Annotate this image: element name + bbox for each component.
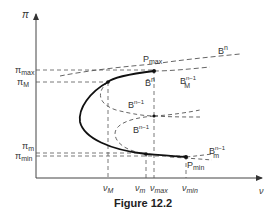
point-m <box>144 152 148 156</box>
point-crossing <box>153 115 156 118</box>
label-Bn1-upper: Bn−1 <box>128 99 145 110</box>
Bn1-lower-dashed-loop <box>115 116 154 154</box>
tick-nu-min: νmin <box>182 183 198 194</box>
tick-nu-M: νM <box>103 183 114 194</box>
label-Bbar-n: B̄n <box>145 76 155 88</box>
tick-nu-m: νm <box>135 183 146 194</box>
label-Bn: Bn <box>218 44 228 56</box>
label-Bm-n1: Bn−1m <box>209 145 226 159</box>
label-P-min: Pmin <box>187 160 204 171</box>
tick-pi-min: πmin <box>15 151 33 162</box>
x-axis-label: ν <box>259 186 264 196</box>
label-Bn1-lower: Bn−1 <box>133 124 150 135</box>
point-Bbar-n <box>152 69 156 73</box>
tick-pi-max: πmax <box>15 65 35 76</box>
figure-canvas: π ν πmax πM πm πmin νM νm νmax νmin Pmax… <box>0 0 280 214</box>
Bn1-upper-dashed-branch2 <box>154 116 200 117</box>
point-M <box>106 80 110 84</box>
tick-pi-M: πM <box>17 77 29 88</box>
BM-n1-dashed-curve <box>154 67 210 71</box>
point-Pmin <box>184 155 188 159</box>
y-axis-label: π <box>22 9 29 20</box>
figure-caption: Figure 12.2 <box>114 197 172 209</box>
main-solid-curve <box>80 71 186 157</box>
label-P-max: Pmax <box>143 54 163 65</box>
label-BM-n1: Bn−1M <box>180 75 197 89</box>
tick-pi-m: πm <box>22 141 34 152</box>
tick-nu-max: νmax <box>150 183 168 194</box>
